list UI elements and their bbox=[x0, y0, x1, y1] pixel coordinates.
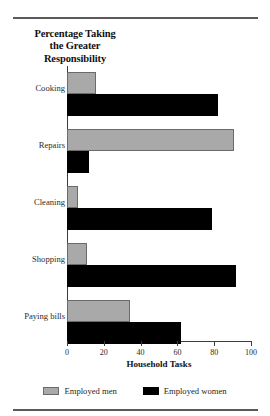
bar-shopping-employed-women bbox=[67, 265, 236, 287]
x-tick-0 bbox=[67, 341, 68, 346]
category-label-repairs: Repairs bbox=[3, 140, 65, 150]
category-label-cleaning: Cleaning bbox=[3, 197, 65, 207]
category-label-shopping: Shopping bbox=[3, 254, 65, 264]
x-tick-label-0: 0 bbox=[65, 348, 69, 357]
category-label-cooking: Cooking bbox=[3, 83, 65, 93]
bar-paying-bills-employed-women bbox=[67, 322, 181, 344]
legend-label-employed-men: Employed men bbox=[64, 386, 116, 396]
x-tick-label-40: 40 bbox=[137, 348, 145, 357]
x-axis-title: Household Tasks bbox=[67, 359, 251, 369]
x-tick-label-100: 100 bbox=[245, 348, 257, 357]
bar-repairs-employed-women bbox=[67, 151, 89, 173]
category-label-paying-bills: Paying bills bbox=[3, 311, 65, 321]
bar-cooking-employed-men bbox=[67, 72, 96, 94]
legend-item-employed-women: Employed women bbox=[143, 386, 227, 396]
black-swatch-icon bbox=[143, 387, 159, 395]
bar-cleaning-employed-men bbox=[67, 186, 78, 208]
x-tick-20 bbox=[104, 341, 105, 346]
gray-swatch-icon bbox=[43, 387, 59, 395]
bar-cooking-employed-women bbox=[67, 94, 218, 116]
bar-repairs-employed-men bbox=[67, 129, 234, 151]
bar-chart: Cooking Repairs Cleaning Shopping Paying… bbox=[0, 0, 270, 416]
bar-cleaning-employed-women bbox=[67, 208, 212, 230]
x-tick-40 bbox=[141, 341, 142, 346]
x-tick-60 bbox=[177, 341, 178, 346]
bar-paying-bills-employed-men bbox=[67, 300, 130, 322]
x-tick-100 bbox=[251, 341, 252, 346]
x-tick-label-60: 60 bbox=[173, 348, 181, 357]
chart-legend: Employed men Employed women bbox=[0, 386, 270, 396]
bar-shopping-employed-men bbox=[67, 243, 87, 265]
x-tick-80 bbox=[214, 341, 215, 346]
bottom-divider-rule bbox=[13, 409, 258, 411]
plot-area bbox=[67, 66, 251, 341]
x-tick-label-80: 80 bbox=[210, 348, 218, 357]
category-label-group: Cooking Repairs Cleaning Shopping Paying… bbox=[0, 66, 65, 341]
x-tick-label-20: 20 bbox=[100, 348, 108, 357]
legend-item-employed-men: Employed men bbox=[43, 386, 116, 396]
legend-label-employed-women: Employed women bbox=[164, 386, 227, 396]
